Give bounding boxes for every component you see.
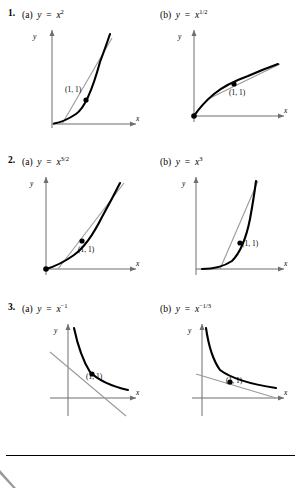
lhs-3a: y	[37, 304, 41, 314]
y-axis-label-3b: y	[188, 326, 191, 335]
exercise-number-2: 2.	[8, 155, 15, 165]
textbook-page: 1. (a) y = x2 (b) y = x1/2 y x (1, 1)	[0, 0, 301, 488]
eq-2a: =	[46, 157, 51, 167]
exp-1a: 2	[61, 8, 64, 15]
x-axis-label-1a: x	[136, 114, 139, 123]
graph-1b: y x (1, 1)	[172, 22, 292, 132]
exp-2a: 3/2	[61, 155, 69, 162]
exp-3b: −1/3	[199, 302, 211, 309]
part-tag-1a: (a)	[22, 10, 33, 20]
eq-1a: =	[46, 10, 51, 20]
part-tag-2a: (a)	[22, 157, 33, 167]
y-axis-label-3a: y	[54, 326, 57, 335]
x-axis-label-2a: x	[136, 259, 139, 268]
y-axis-label-1b: y	[178, 32, 181, 41]
y-axis-label-2b: y	[182, 179, 185, 188]
exercise-number-1: 1.	[8, 8, 15, 18]
exercise-1b-label: (b) y = x1/2	[160, 8, 207, 20]
point-label-3b: (1, 1)	[226, 376, 242, 385]
graph-2b: y x (1, 1)	[172, 169, 292, 279]
lhs-2a: y	[37, 157, 41, 167]
point-label-1b: (1, 1)	[229, 88, 245, 97]
y-axis-label-1a: y	[33, 32, 36, 41]
lhs-1a: y	[37, 10, 41, 20]
graph-1a: y x (1, 1)	[24, 22, 144, 132]
x-axis-label-3a: x	[136, 388, 139, 397]
exp-2b: 3	[199, 155, 202, 162]
exp-1b: 1/2	[199, 8, 207, 15]
page-divider	[6, 455, 295, 456]
part-tag-2b: (b)	[160, 157, 171, 167]
point-label-2b: (1, 1)	[242, 239, 258, 248]
eq-3b: =	[185, 304, 190, 314]
exercise-number-3: 3.	[8, 302, 15, 312]
eq-3a: =	[46, 304, 51, 314]
exercise-3a-label: (a) y = x−1	[22, 302, 68, 314]
y-axis-label-2a: y	[30, 179, 33, 188]
exercise-1a-label: (a) y = x2	[22, 8, 64, 20]
exp-3a: −1	[61, 302, 68, 309]
x-axis-label-3b: x	[284, 388, 287, 397]
part-tag-3b: (b)	[160, 304, 171, 314]
point-label-1a: (1, 1)	[65, 85, 81, 94]
page-corner-fold-inner	[0, 474, 13, 488]
x-axis-label-2b: x	[284, 259, 287, 268]
graph-3a: y x (1, 1)	[24, 316, 144, 426]
exercise-2a-label: (a) y = x3/2	[22, 155, 69, 167]
part-tag-3a: (a)	[22, 304, 33, 314]
point-label-2a: (1, 1)	[78, 245, 94, 254]
lhs-1b: y	[176, 10, 180, 20]
x-axis-label-1b: x	[284, 106, 287, 115]
exercise-2b-label: (b) y = x3	[160, 155, 202, 167]
eq-1b: =	[185, 10, 190, 20]
exercise-3b-label: (b) y = x−1/3	[160, 302, 211, 314]
graph-3b: y x (1, 1)	[172, 316, 292, 426]
graph-2a: y x (1, 1)	[24, 169, 144, 279]
lhs-2b: y	[176, 157, 180, 167]
point-label-3a: (1, 1)	[86, 372, 102, 381]
part-tag-1b: (b)	[160, 10, 171, 20]
lhs-3b: y	[176, 304, 180, 314]
eq-2b: =	[185, 157, 190, 167]
